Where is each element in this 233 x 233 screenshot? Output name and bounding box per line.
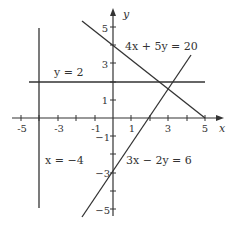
x-tick-label: 3 <box>165 123 171 134</box>
eq-label-3x-2y-6: 3x − 2y = 6 <box>126 154 192 167</box>
eq-label-x-neg4: x = −4 <box>45 154 84 167</box>
x-tick-label: -3 <box>54 123 64 134</box>
y-tick-label: 1 <box>102 95 108 106</box>
y-axis-arrow-icon <box>110 8 116 16</box>
y-axis-label: y <box>122 8 130 21</box>
x-axis-label: x <box>219 122 226 135</box>
x-tick-label: 1 <box>129 123 135 134</box>
x-tick-label: -5 <box>17 123 27 134</box>
graph-plot: -5 -3 -1 1 3 5 5 3 1 −1 −3 −5 x y 4x + 5… <box>0 0 233 233</box>
eq-label-4x-5y-20: 4x + 5y = 20 <box>125 40 198 53</box>
y-tick-label: −5 <box>95 205 110 216</box>
line-4x-5y-20 <box>82 21 205 118</box>
y-tick-label: −1 <box>95 132 110 143</box>
y-tick-label: 3 <box>102 59 108 70</box>
x-tick-label: 5 <box>202 123 208 134</box>
eq-label-y-2: y = 2 <box>53 66 83 79</box>
y-tick-label: −3 <box>95 168 110 179</box>
y-tick-label: 5 <box>102 23 108 34</box>
x-axis-arrow-icon <box>216 115 224 121</box>
